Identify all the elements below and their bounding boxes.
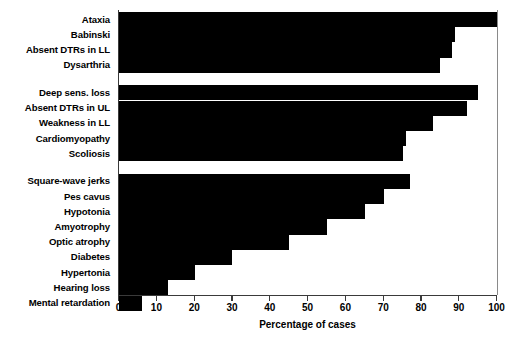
x-axis-tick <box>383 296 384 301</box>
x-axis-tick <box>307 296 308 301</box>
category-label: Cardiomyopathy <box>36 133 110 144</box>
category-label: Dysarthria <box>64 59 110 70</box>
x-axis-tick-label: 90 <box>453 302 464 313</box>
category-label: Babinski <box>71 29 110 40</box>
bar <box>119 58 440 73</box>
bar <box>119 189 384 204</box>
x-axis-tick <box>156 296 157 301</box>
bar <box>119 265 195 280</box>
bar <box>119 131 406 146</box>
x-axis-tick-label: 80 <box>415 302 426 313</box>
bars-container <box>119 10 497 295</box>
bar <box>119 146 403 161</box>
bar <box>119 204 365 219</box>
bar <box>119 85 478 100</box>
bar <box>119 174 410 189</box>
x-axis-tick <box>420 296 421 301</box>
x-axis-tick-label: 70 <box>378 302 389 313</box>
bar <box>119 116 433 131</box>
category-label: Absent DTRs in LL <box>26 44 110 55</box>
category-label: Diabetes <box>71 251 110 262</box>
category-label: Amyotrophy <box>55 221 111 232</box>
x-axis-tick <box>269 296 270 301</box>
category-label: Mental retardation <box>29 297 110 308</box>
x-axis-title: Percentage of cases <box>118 319 497 330</box>
bar <box>119 235 289 250</box>
bar <box>119 250 232 265</box>
x-axis-tick <box>496 296 497 301</box>
x-axis-tick <box>458 296 459 301</box>
bar <box>119 219 327 234</box>
category-label: Optic atrophy <box>49 236 110 247</box>
x-axis-tick <box>118 296 119 301</box>
category-label: Pes cavus <box>64 191 110 202</box>
category-label: Square-wave jerks <box>27 175 110 186</box>
bar <box>119 295 142 310</box>
plot-area <box>118 10 498 295</box>
category-label: Weakness in LL <box>39 117 110 128</box>
bar <box>119 280 168 295</box>
x-axis-tick-label: 30 <box>226 302 237 313</box>
x-axis-tick-label: 40 <box>264 302 275 313</box>
x-axis-tick <box>231 296 232 301</box>
x-axis-tick <box>194 296 195 301</box>
category-label-column: AtaxiaBabinskiAbsent DTRs in LLDysarthri… <box>0 0 114 295</box>
category-label: Hypertonia <box>61 267 110 278</box>
bar <box>119 101 467 116</box>
x-axis-tick-label: 20 <box>189 302 200 313</box>
category-label: Hearing loss <box>54 282 110 293</box>
category-label: Ataxia <box>82 14 110 25</box>
x-axis-tick-label: 10 <box>151 302 162 313</box>
bar-chart: AtaxiaBabinskiAbsent DTRs in LLDysarthri… <box>0 0 513 343</box>
x-axis-tick-label: 100 <box>488 302 505 313</box>
bar <box>119 42 452 57</box>
x-axis-tick-label: 0 <box>116 302 122 313</box>
bar <box>119 12 497 27</box>
category-label: Scoliosis <box>69 148 110 159</box>
x-axis-tick-label: 60 <box>340 302 351 313</box>
category-label: Hypotonia <box>64 206 110 217</box>
x-axis-tick <box>345 296 346 301</box>
category-label: Absent DTRs in UL <box>25 102 110 113</box>
category-label: Deep sens. loss <box>39 87 110 98</box>
x-axis-tick-label: 50 <box>302 302 313 313</box>
bar <box>119 27 455 42</box>
